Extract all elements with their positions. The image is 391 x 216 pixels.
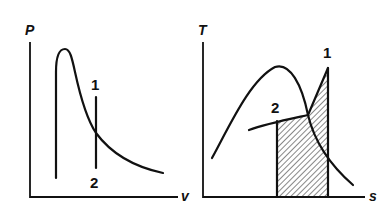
pv-y-axis-label: P [25,22,35,38]
ts-y-axis-label: T [198,22,208,38]
pv-saturation-curve [56,49,163,178]
ts-point-1-label: 1 [323,44,331,61]
thermo-diagrams: P v 1 2 T s 1 2 [0,0,391,216]
ts-point-2-label: 2 [271,99,279,116]
pv-x-axis-label: v [181,188,190,204]
ts-x-axis-label: s [369,188,377,204]
pv-diagram: P v 1 2 [25,22,190,204]
pv-point-2-label: 2 [90,174,98,191]
pv-point-1-label: 1 [91,76,99,93]
ts-diagram: T s 1 2 [198,22,377,204]
pv-axes [30,42,178,197]
